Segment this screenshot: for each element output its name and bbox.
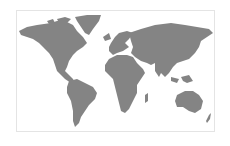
greenland [75, 15, 101, 35]
south-america [67, 79, 97, 127]
map-frame [16, 10, 215, 132]
north-america [19, 21, 87, 83]
europe [109, 31, 133, 55]
australia [175, 91, 203, 113]
world-map [17, 11, 216, 133]
africa [105, 55, 145, 113]
